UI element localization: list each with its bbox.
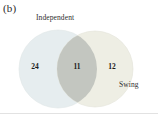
- count-intersection: 11: [70, 62, 84, 71]
- venn-diagram-figure: (b) Independent Swing 24 11 12: [0, 0, 158, 114]
- set-label-independent: Independent: [36, 13, 74, 22]
- count-independent-only: 24: [28, 62, 42, 71]
- set-label-swing: Swing: [119, 80, 139, 89]
- count-swing-only: 12: [105, 62, 119, 71]
- venn-svg: [0, 0, 158, 114]
